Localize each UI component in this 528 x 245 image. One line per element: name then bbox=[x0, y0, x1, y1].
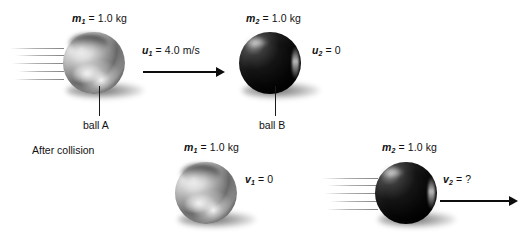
after-ball-b-mass-value: = 1.0 kg bbox=[398, 141, 436, 153]
after-ball-a-mass-value: = 1.0 kg bbox=[200, 141, 238, 153]
ball-b-sphere bbox=[239, 32, 301, 94]
ball-a-velocity-var: u bbox=[142, 44, 149, 56]
ball-a-leader-line bbox=[99, 86, 100, 116]
after-ball-a-velocity-sub: 1 bbox=[251, 179, 255, 186]
ball-b-mass-label: m2 = 1.0 kg bbox=[246, 13, 301, 24]
after-ball-a-sphere bbox=[175, 162, 237, 224]
ball-a-mass-label: m1 = 1.0 kg bbox=[72, 13, 127, 24]
ball-a-mass-value: = 1.0 kg bbox=[88, 12, 126, 24]
ball-b-velocity-label: u2 = 0 bbox=[312, 45, 341, 56]
motion-lines-ball-a bbox=[10, 46, 66, 88]
ball-b-velocity-value: = 0 bbox=[326, 44, 341, 56]
after-ball-b-sphere bbox=[375, 162, 437, 224]
ball-a-velocity-value: = 4.0 m/s bbox=[156, 44, 200, 56]
after-ball-a-mass-label: m1 = 1.0 kg bbox=[184, 142, 239, 153]
ball-a-mass-sub: 1 bbox=[81, 18, 85, 25]
after-collision-label: After collision bbox=[32, 144, 94, 156]
after-ball-b-mass-label: m2 = 1.0 kg bbox=[382, 142, 437, 153]
ball-a-velocity-label: u1 = 4.0 m/s bbox=[142, 45, 200, 56]
ball-b-mass-value: = 1.0 kg bbox=[262, 12, 300, 24]
after-ball-b-velocity-sub: 2 bbox=[449, 179, 453, 186]
after-ball-a-velocity-value: = 0 bbox=[258, 173, 273, 185]
after-ball-a-velocity-label: v1 = 0 bbox=[245, 174, 273, 185]
ball-b-leader-line bbox=[275, 86, 276, 116]
ball-a-caption: ball A bbox=[83, 119, 109, 131]
after-ball-b-velocity-value: = ? bbox=[456, 173, 471, 185]
physics-diagram-canvas: m1 = 1.0 kg u1 = 4.0 m/s ball A m2 = 1.0… bbox=[0, 0, 528, 245]
ball-a-velocity-sub: 1 bbox=[149, 50, 153, 57]
after-ball-b-velocity-arrow bbox=[440, 196, 518, 206]
after-ball-a-mass-sub: 1 bbox=[193, 147, 197, 154]
ball-a-sphere bbox=[63, 32, 125, 94]
ball-b-mass-sub: 2 bbox=[255, 18, 259, 25]
ball-a-velocity-arrow bbox=[143, 67, 225, 77]
after-ball-b-velocity-label: v2 = ? bbox=[443, 174, 471, 185]
motion-lines-after-ball-b bbox=[322, 176, 380, 218]
after-ball-b-mass-sub: 2 bbox=[391, 147, 395, 154]
ball-b-velocity-sub: 2 bbox=[319, 50, 323, 57]
ball-b-velocity-var: u bbox=[312, 44, 319, 56]
ball-b-caption: ball B bbox=[259, 119, 285, 131]
